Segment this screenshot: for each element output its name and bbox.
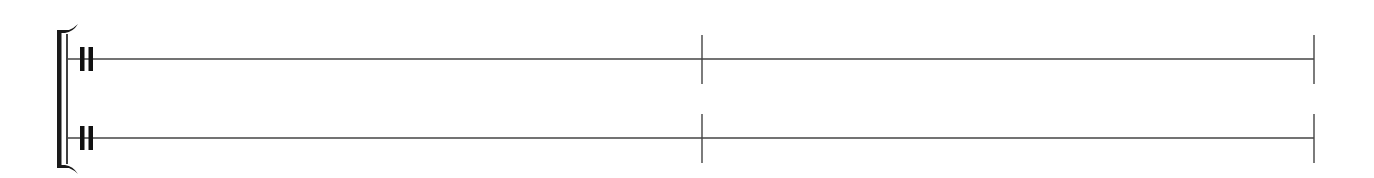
staff-1 [67, 35, 1314, 84]
percussion-clef-icon [89, 126, 94, 150]
music-score [0, 0, 1374, 178]
percussion-clef-icon [80, 126, 85, 150]
bracket-top-curl-icon [57, 24, 78, 33]
staff-2 [67, 114, 1314, 163]
bracket-bottom-curl-icon [57, 165, 78, 174]
bracket-bar [57, 30, 62, 168]
percussion-clef-icon [80, 47, 85, 71]
percussion-clef-icon [89, 47, 94, 71]
staves [67, 35, 1314, 163]
